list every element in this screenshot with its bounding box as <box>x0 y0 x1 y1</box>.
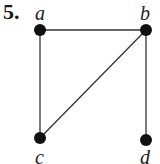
edge-b-c <box>40 30 146 138</box>
vertex-label-d: d <box>140 147 150 164</box>
vertex-d <box>140 134 152 146</box>
vertex-a <box>34 24 46 36</box>
vertex-label-a: a <box>35 3 45 23</box>
graph-drawing <box>0 0 160 164</box>
vertex-c <box>34 132 46 144</box>
graph-figure: 5. a b c d <box>0 0 160 164</box>
vertex-b <box>140 24 152 36</box>
vertex-label-c: c <box>35 147 44 164</box>
vertex-label-b: b <box>140 3 150 23</box>
